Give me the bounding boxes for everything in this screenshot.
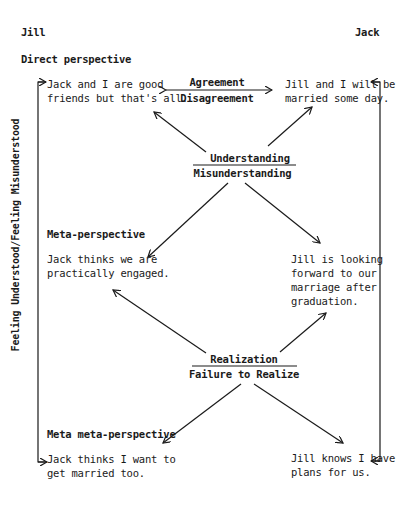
left-bracket xyxy=(38,82,46,462)
jill-column-header: Jill xyxy=(21,25,46,39)
meta-perspective-label: Meta-perspective xyxy=(47,227,145,241)
disagreement-label: Disagreement xyxy=(172,91,262,105)
feeling-understood-axis-label: Feeling Understood/Feeling Misunderstood xyxy=(10,95,24,375)
meta-meta-perspective-label: Meta meta-perspective xyxy=(47,427,176,441)
jack-column-header: Jack xyxy=(355,25,380,39)
realization-label: Realization xyxy=(194,352,294,366)
misunderstanding-label: Misunderstanding xyxy=(190,166,295,180)
direct-perspective-label: Direct perspective xyxy=(21,52,131,66)
failure-to-realize-label: Failure to Realize xyxy=(189,367,299,381)
understanding-label: Understanding xyxy=(200,151,300,165)
agreement-label: Agreement xyxy=(172,75,262,89)
